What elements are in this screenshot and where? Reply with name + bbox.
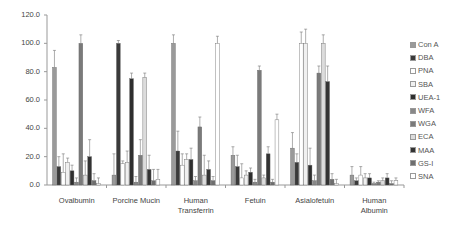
bar [202, 175, 206, 185]
bar [79, 43, 83, 185]
legend-item: SBA [410, 78, 440, 91]
bar [134, 182, 138, 185]
bar [381, 181, 385, 185]
bar [394, 181, 398, 185]
chart-bars [53, 29, 398, 185]
bar [97, 184, 101, 185]
bar-chart [0, 0, 456, 226]
bar [295, 162, 299, 185]
bar [385, 178, 389, 185]
bar [207, 169, 211, 185]
legend-label: WGA [418, 117, 436, 130]
bar [257, 70, 261, 185]
legend-label: WFA [418, 104, 434, 117]
bar [330, 179, 334, 185]
legend-item: SNA [410, 170, 440, 183]
bar [147, 169, 151, 185]
chart-legend: Con ADBAPNASBAUEA-1WFAWGAECAMAAGS-ISNA [410, 38, 440, 183]
bar [326, 82, 330, 185]
bar [130, 79, 134, 185]
bar [116, 43, 120, 185]
legend-label: PNA [418, 64, 433, 77]
bar [249, 172, 253, 185]
bar [308, 165, 312, 185]
legend-item: UEA-1 [410, 91, 440, 104]
bar [211, 181, 215, 185]
bar [240, 178, 244, 185]
legend-item: WGA [410, 117, 440, 130]
legend-label: SBA [418, 78, 433, 91]
x-category-label-line: Human [345, 196, 405, 206]
legend-label: ECA [418, 130, 433, 143]
bar [185, 160, 189, 186]
bar [83, 175, 87, 185]
y-tick-label: 60.0 [4, 95, 40, 104]
chart-axes [44, 15, 404, 188]
bar [75, 182, 79, 185]
legend-item: MAA [410, 144, 440, 157]
legend-label: UEA-1 [418, 91, 440, 104]
x-category-label-line: Transferrin [166, 206, 226, 216]
bar [390, 184, 394, 185]
bar [57, 167, 61, 185]
bar [88, 157, 92, 185]
bar [70, 171, 74, 185]
x-category-label: HumanAlbumin [345, 196, 405, 216]
y-tick-label: 0.0 [4, 180, 40, 189]
x-category-label: Porcine Mucin [107, 196, 167, 206]
x-category-label-line: Ovalbumin [47, 196, 107, 206]
legend-label: GS-I [418, 157, 433, 170]
y-tick-label: 100.0 [4, 38, 40, 47]
y-tick-label: 20.0 [4, 152, 40, 161]
x-category-label-line: Asialofetuin [285, 196, 345, 206]
legend-item: Con A [410, 38, 440, 51]
bar [354, 181, 358, 185]
legend-swatch-icon [410, 68, 416, 74]
bar [271, 182, 275, 185]
bar [216, 43, 220, 185]
y-tick-label: 80.0 [4, 67, 40, 76]
legend-swatch-icon [410, 42, 416, 48]
bar [368, 178, 372, 185]
bar [180, 165, 184, 185]
bar [152, 181, 156, 185]
legend-swatch-icon [410, 108, 416, 114]
legend-item: WFA [410, 104, 440, 117]
legend-label: SNA [418, 170, 433, 183]
bar [172, 43, 176, 185]
x-category-label-line: Human [166, 196, 226, 206]
bar [299, 43, 303, 185]
bar [363, 178, 367, 185]
y-tick-label: 40.0 [4, 123, 40, 132]
bar [376, 182, 380, 185]
legend-item: PNA [410, 64, 440, 77]
legend-label: Con A [418, 38, 438, 51]
x-category-label: Asialofetuin [285, 196, 345, 206]
legend-item: GS-I [410, 157, 440, 170]
legend-swatch-icon [410, 173, 416, 179]
bar [244, 175, 248, 185]
bar [61, 172, 65, 185]
legend-swatch-icon [410, 121, 416, 127]
bar [335, 184, 339, 185]
bar [125, 162, 129, 185]
x-category-label-line: Albumin [345, 206, 405, 216]
bar [313, 181, 317, 185]
bar [176, 151, 180, 185]
bar [138, 155, 142, 185]
bar [92, 181, 96, 185]
bar [304, 43, 308, 185]
bar [317, 73, 321, 185]
bar [359, 175, 363, 185]
x-category-label-line: Porcine Mucin [107, 196, 167, 206]
bar [372, 184, 376, 185]
bar [121, 164, 125, 185]
legend-swatch-icon [410, 134, 416, 140]
bar [231, 155, 235, 185]
legend-swatch-icon [410, 147, 416, 153]
x-category-label-line: Fetuin [226, 196, 286, 206]
bar [194, 181, 198, 185]
bar [291, 148, 295, 185]
bar [189, 160, 193, 186]
legend-swatch-icon [410, 81, 416, 87]
